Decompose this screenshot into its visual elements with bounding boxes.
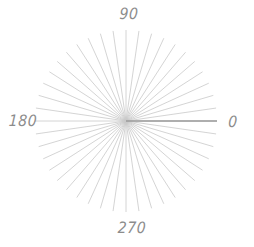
polar-spoke: [39, 121, 126, 147]
polar-spoke: [126, 121, 152, 208]
polar-spoke: [126, 121, 195, 181]
polar-plot-canvas: [0, 0, 254, 247]
polar-spoke: [126, 34, 152, 121]
polar-spoke: [66, 121, 126, 190]
polar-spoke: [39, 95, 126, 121]
polar-spoke: [126, 121, 186, 190]
polar-spoke: [57, 121, 126, 181]
polar-spoke: [57, 61, 126, 121]
polar-spoke: [126, 52, 186, 121]
polar-figure: 90 0 180 270: [0, 0, 254, 247]
polar-spoke: [126, 121, 213, 147]
theta-tick-label-90: 90: [119, 5, 139, 21]
polar-spoke: [100, 121, 126, 208]
theta-tick-label-270: 270: [117, 219, 146, 235]
polar-spoke: [126, 95, 213, 121]
theta-tick-label-180: 180: [8, 112, 37, 128]
polar-spoke: [100, 34, 126, 121]
polar-spoke: [126, 61, 195, 121]
theta-tick-label-0: 0: [228, 113, 238, 129]
polar-spoke: [66, 52, 126, 121]
